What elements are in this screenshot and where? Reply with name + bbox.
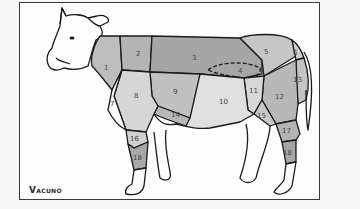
label-cut-15: 15 bbox=[257, 112, 266, 120]
label-cut-10: 10 bbox=[219, 98, 228, 106]
label-cut-9: 9 bbox=[173, 88, 177, 96]
label-cut-6: 6 bbox=[293, 49, 298, 57]
label-cut-7: 7 bbox=[110, 100, 114, 108]
front-leg-lower bbox=[125, 168, 146, 195]
label-cut-3: 3 bbox=[192, 54, 196, 62]
cow-diagram: 1 2 3 4 5 6 7 8 9 10 11 12 13 14 15 16 1… bbox=[0, 0, 360, 209]
label-cut-1: 1 bbox=[104, 64, 108, 72]
label-cut-2: 2 bbox=[136, 50, 140, 58]
label-cut-14: 14 bbox=[171, 111, 180, 119]
label-cut-18-hind: 18 bbox=[283, 149, 292, 157]
label-cut-13: 13 bbox=[293, 76, 302, 84]
hind-leg-lower bbox=[274, 162, 296, 194]
label-cut-16: 16 bbox=[130, 135, 139, 143]
label-cut-12: 12 bbox=[275, 93, 284, 101]
far-front-leg bbox=[154, 130, 170, 180]
label-cut-11: 11 bbox=[249, 87, 258, 95]
label-cut-18-front: 18 bbox=[133, 154, 142, 162]
label-cut-5: 5 bbox=[264, 48, 268, 56]
label-cut-8: 8 bbox=[134, 92, 138, 100]
label-cut-17: 17 bbox=[282, 127, 291, 135]
label-cut-4: 4 bbox=[238, 67, 243, 75]
far-hind-leg bbox=[240, 124, 270, 183]
diagram-title: Vacuno bbox=[29, 185, 62, 195]
